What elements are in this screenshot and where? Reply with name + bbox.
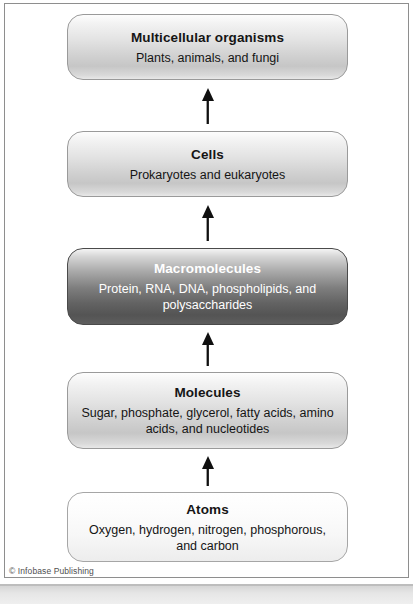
level-description: Oxygen, hydrogen, nitrogen, phosphorous,… xyxy=(68,522,347,554)
level-description: Prokaryotes and eukaryotes xyxy=(120,167,296,183)
up-arrow-icon-to-molecules xyxy=(67,456,348,486)
level-title: Macromolecules xyxy=(154,260,261,277)
level-box-multicellular-organisms: Multicellular organisms Plants, animals,… xyxy=(67,14,348,80)
level-description: Plants, animals, and fungi xyxy=(126,50,289,66)
level-box-macromolecules: Macromolecules Protein, RNA, DNA, phosph… xyxy=(67,248,348,325)
level-title: Molecules xyxy=(174,384,240,401)
level-description: Sugar, phosphate, glycerol, fatty acids,… xyxy=(68,405,347,437)
level-description: Protein, RNA, DNA, phospholipids, and po… xyxy=(68,281,347,313)
level-title: Atoms xyxy=(186,501,229,518)
copyright-notice: © Infobase Publishing xyxy=(9,566,94,576)
level-box-molecules: Molecules Sugar, phosphate, glycerol, fa… xyxy=(67,372,348,449)
up-arrow-icon-to-multicellular-organisms xyxy=(67,88,348,124)
level-title: Cells xyxy=(191,146,224,163)
level-title: Multicellular organisms xyxy=(131,29,284,46)
up-arrow-icon-to-cells xyxy=(67,205,348,241)
bottom-strip xyxy=(0,586,413,604)
biological-hierarchy-diagram: Multicellular organisms Plants, animals,… xyxy=(0,0,413,604)
hierarchy-stack: Multicellular organisms Plants, animals,… xyxy=(67,0,348,578)
level-box-cells: Cells Prokaryotes and eukaryotes xyxy=(67,131,348,197)
up-arrow-icon-to-macromolecules xyxy=(67,332,348,366)
level-box-atoms: Atoms Oxygen, hydrogen, nitrogen, phosph… xyxy=(67,492,348,562)
